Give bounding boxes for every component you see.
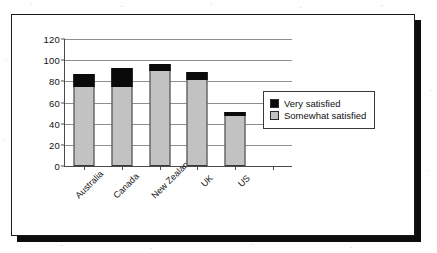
x-axis-tick-mark — [84, 166, 85, 170]
y-axis-tick-label: 0 — [55, 161, 60, 172]
bar-slot: New Zealand — [141, 39, 179, 166]
y-axis-tick-label: 120 — [44, 34, 60, 45]
x-axis-tick-mark — [160, 166, 161, 170]
paper-speck — [60, 245, 63, 246]
x-axis-tick-mark — [273, 166, 274, 170]
y-axis-tick-label: 100 — [44, 55, 60, 66]
legend-label-somewhat-satisfied: Somewhat satisfied — [284, 110, 366, 121]
bar-slot: Australia — [65, 39, 103, 166]
paper-speck — [30, 4, 32, 5]
bar-segment-very-satisfied[interactable] — [111, 68, 132, 87]
bar-new-zealand[interactable] — [149, 64, 170, 166]
bar-segment-very-satisfied[interactable] — [225, 112, 246, 116]
legend-swatch-somewhat-satisfied — [270, 111, 279, 120]
bar-slot: Canada — [103, 39, 141, 166]
paper-speck — [428, 170, 430, 171]
y-axis-tick-label: 80 — [49, 76, 60, 87]
paper-speck — [300, 7, 302, 8]
x-axis-label-us: US — [225, 173, 253, 201]
x-axis-label-australia: Australia — [73, 173, 101, 201]
bar-australia[interactable] — [73, 74, 94, 166]
paper-speck — [430, 90, 432, 91]
bar-canada[interactable] — [111, 68, 132, 166]
legend-item-somewhat-satisfied: Somewhat satisfied — [270, 110, 366, 121]
legend-swatch-very-satisfied — [270, 99, 279, 108]
y-axis-tick-label: 40 — [49, 118, 60, 129]
bar-us[interactable] — [225, 112, 246, 166]
chart-legend: Very satisfied Somewhat satisfied — [263, 91, 375, 129]
x-axis-label-new-zealand: New Zealand — [149, 173, 177, 201]
x-axis-tick-mark — [197, 166, 198, 170]
bar-uk[interactable] — [187, 72, 208, 166]
x-axis-tick-mark — [122, 166, 123, 170]
bar-segment-very-satisfied[interactable] — [149, 64, 170, 70]
x-axis-label-canada: Canada — [111, 173, 139, 201]
paper-speck — [5, 60, 7, 61]
bar-slot: US — [216, 39, 254, 166]
paper-speck — [120, 6, 123, 7]
paper-speck — [150, 248, 152, 249]
bar-slot: UK — [179, 39, 217, 166]
legend-label-very-satisfied: Very satisfied — [284, 98, 341, 109]
chart-figure: 020406080100120 AustraliaCanadaNew Zeala… — [11, 14, 415, 236]
x-axis-tick-mark — [235, 166, 236, 170]
bar-segment-very-satisfied[interactable] — [73, 74, 94, 87]
paper-speck — [380, 5, 383, 6]
plot-area: 020406080100120 AustraliaCanadaNew Zeala… — [64, 39, 292, 167]
bar-segment-very-satisfied[interactable] — [187, 72, 208, 80]
y-axis-tick-label: 20 — [49, 139, 60, 150]
paper-speck — [250, 244, 253, 245]
y-axis-tick-label: 60 — [49, 97, 60, 108]
plot-wrapper: 020406080100120 AustraliaCanadaNew Zeala… — [12, 15, 416, 237]
legend-item-very-satisfied: Very satisfied — [270, 98, 366, 109]
paper-speck — [3, 140, 5, 141]
paper-speck — [210, 3, 212, 4]
paper-speck — [350, 247, 352, 248]
x-axis-label-uk: UK — [187, 173, 215, 201]
bars-group: AustraliaCanadaNew ZealandUKUS — [65, 39, 292, 166]
